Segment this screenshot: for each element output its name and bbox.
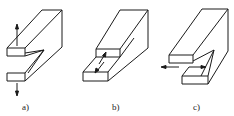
arrow-left-icon [161, 66, 179, 69]
panel-label-a: a) [22, 102, 29, 112]
arrow-down-icon [16, 83, 19, 96]
panel-c: c) [156, 0, 234, 116]
panel-a: a) [0, 0, 78, 116]
sliding-mode-diagram [78, 0, 156, 100]
arrow-up-icon [16, 24, 19, 46]
opening-mode-diagram [0, 0, 78, 100]
arrow-slide-forward-icon [99, 52, 106, 64]
tearing-mode-diagram [156, 0, 234, 100]
arrow-right-icon [189, 66, 206, 69]
panel-b: b) [78, 0, 156, 116]
panel-label-c: c) [193, 102, 200, 112]
panel-label-b: b) [112, 102, 120, 112]
